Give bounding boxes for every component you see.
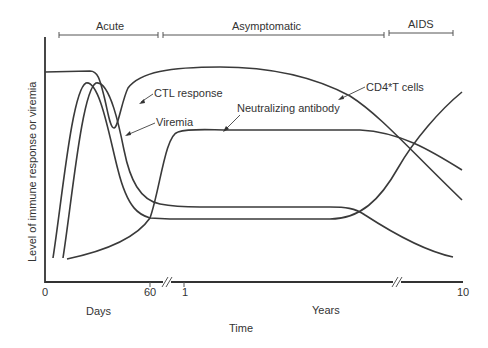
phase-bar-aids: AIDS <box>389 18 453 36</box>
axis-break-icon <box>162 277 172 287</box>
tick-label-10: 10 <box>457 286 469 298</box>
tick-label-1: 1 <box>182 286 188 298</box>
x-unit-years: Years <box>312 304 340 316</box>
axes <box>45 37 463 282</box>
phase-label-acute: Acute <box>96 20 124 32</box>
x-axis-label: Time <box>229 322 253 334</box>
hiv-immune-response-chart: Acute Asymptomatic AIDS 0 60 1 10 Days Y… <box>0 0 488 348</box>
x-unit-days: Days <box>86 305 112 317</box>
label-viremia: Viremia <box>156 116 194 128</box>
y-axis-label: Level of immune response or viremia <box>26 81 38 262</box>
annotation-ctl: CTL response <box>139 87 223 104</box>
label-neutralizing-antibody: Neutralizing antibody <box>237 102 340 114</box>
axis-break-icon <box>392 277 402 287</box>
phase-label-aids: AIDS <box>408 18 434 30</box>
tick-label-0: 0 <box>42 286 48 298</box>
phase-label-asymptomatic: Asymptomatic <box>232 20 302 32</box>
label-cd4-t-cells: CD4*T cells <box>366 81 424 93</box>
label-ctl-response: CTL response <box>154 87 223 99</box>
tick-label-60: 60 <box>144 286 156 298</box>
annotation-antibody: Neutralizing antibody <box>223 102 340 132</box>
phase-bar-acute: Acute <box>59 20 158 38</box>
phase-bar-asymptomatic: Asymptomatic <box>163 20 384 38</box>
annotation-viremia: Viremia <box>125 116 194 136</box>
